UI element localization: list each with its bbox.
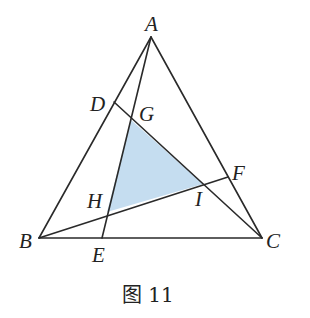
label-a: A: [143, 12, 158, 36]
geometry-figure: A B C D E F G H I 图 11: [0, 0, 310, 318]
segment-ca: [151, 37, 262, 238]
shaded-triangle-ghi: [107, 120, 203, 212]
label-i: I: [194, 187, 203, 211]
label-e: E: [91, 243, 105, 267]
label-b: B: [19, 229, 32, 253]
figure-caption: 图 11: [122, 283, 174, 307]
label-d: D: [89, 92, 105, 116]
label-g: G: [139, 102, 154, 126]
label-f: F: [231, 161, 245, 185]
label-h: H: [86, 189, 104, 213]
label-c: C: [266, 229, 281, 253]
